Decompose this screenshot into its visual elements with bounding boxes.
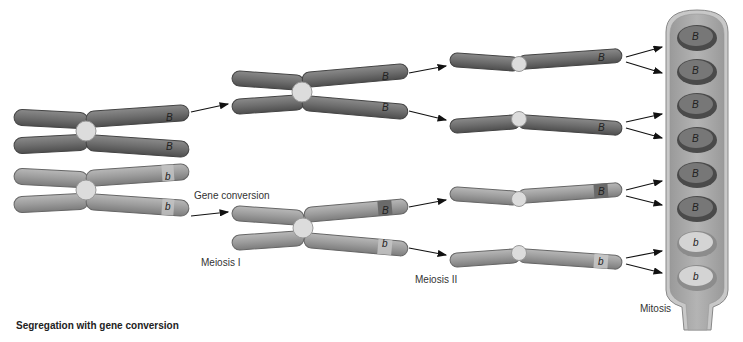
spore-5: B xyxy=(677,162,717,188)
svg-text:B: B xyxy=(166,141,173,152)
spore-3: B xyxy=(677,93,717,119)
svg-text:B: B xyxy=(598,52,605,63)
arrow xyxy=(409,200,446,207)
svg-text:B: B xyxy=(382,71,389,82)
meiosis1-converted-chromosome: B b xyxy=(232,198,409,256)
gene-conversion-label: Gene conversion xyxy=(194,190,270,201)
svg-text:B: B xyxy=(382,205,389,216)
arrow xyxy=(191,104,228,112)
initial-dark-chromosome: B B xyxy=(14,104,190,157)
meiosis2-chromatid-2: B xyxy=(450,112,623,136)
spore-1: B xyxy=(677,25,717,51)
figure-title: Segregation with gene conversion xyxy=(16,320,179,331)
mitosis-label: Mitosis xyxy=(640,303,671,314)
svg-text:b: b xyxy=(165,171,171,182)
mitosis-arrows xyxy=(626,47,662,273)
spore-4: B xyxy=(677,127,717,153)
svg-text:B: B xyxy=(382,102,389,113)
arrow xyxy=(409,66,446,73)
svg-text:B: B xyxy=(598,122,605,133)
meiosis2-chromatid-3: B xyxy=(450,182,623,206)
spore-7: b xyxy=(677,231,717,257)
svg-text:b: b xyxy=(693,271,699,282)
arrow xyxy=(409,111,446,120)
svg-text:B: B xyxy=(166,112,173,123)
spore-6: B xyxy=(677,196,717,222)
arrow xyxy=(191,212,228,216)
svg-text:B: B xyxy=(598,186,605,197)
svg-text:b: b xyxy=(382,238,388,249)
svg-text:B: B xyxy=(692,99,699,110)
svg-text:B: B xyxy=(692,168,699,179)
svg-text:B: B xyxy=(692,31,699,42)
svg-text:b: b xyxy=(693,237,699,248)
arrow xyxy=(409,248,446,255)
gene-conversion-diagram: B B b b B B B b xyxy=(0,0,743,342)
initial-light-chromosome: b b xyxy=(14,163,190,216)
spore-2: B xyxy=(677,59,717,85)
svg-text:b: b xyxy=(165,201,171,212)
meiosis-1-label: Meiosis I xyxy=(201,257,240,268)
svg-text:B: B xyxy=(692,202,699,213)
meiosis2-chromatid-4: b xyxy=(450,246,623,270)
meiosis-2-label: Meiosis II xyxy=(415,274,457,285)
svg-text:b: b xyxy=(598,256,604,267)
svg-text:B: B xyxy=(692,133,699,144)
svg-text:B: B xyxy=(692,65,699,76)
meiosis2-chromatid-1: B xyxy=(450,48,623,71)
meiosis1-dark-chromosome: B B xyxy=(232,63,409,119)
spore-8: b xyxy=(677,265,717,291)
